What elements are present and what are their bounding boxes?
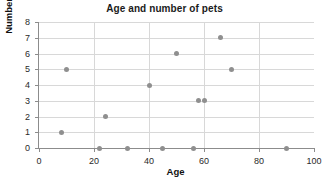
data-point [174, 51, 179, 56]
chart-title: Age and number of pets [0, 3, 329, 14]
gridline-vertical [94, 22, 95, 148]
y-tick: 3 [35, 101, 39, 102]
data-point [59, 130, 64, 135]
y-tick: 7 [35, 38, 39, 39]
x-axis-label: Age [38, 166, 313, 177]
y-axis-label-container: Number of pets [4, 22, 16, 148]
y-tick: 6 [35, 54, 39, 55]
y-tick-label: 6 [25, 49, 30, 59]
y-tick-label: 7 [25, 33, 30, 43]
gridline-horizontal [39, 85, 314, 86]
data-point [64, 67, 69, 72]
x-tick: 0 [39, 148, 40, 152]
data-point [103, 114, 108, 119]
y-tick: 4 [35, 85, 39, 86]
data-point [191, 146, 196, 151]
gridline-horizontal [39, 38, 314, 39]
y-tick: 1 [35, 132, 39, 133]
x-tick: 20 [94, 148, 95, 152]
gridline-vertical [259, 22, 260, 148]
y-tick-label: 4 [25, 80, 30, 90]
scatter-chart: Age and number of pets Number of pets 01… [0, 0, 329, 187]
y-tick-label: 0 [25, 143, 30, 153]
data-point [97, 146, 102, 151]
x-tick-label: 100 [306, 156, 321, 166]
y-tick: 8 [35, 22, 39, 23]
plot-area: 012345678 020406080100 [38, 22, 314, 149]
x-tick: 80 [259, 148, 260, 152]
y-axis-label: Number of pets [3, 0, 14, 54]
gridline-horizontal [39, 117, 314, 118]
gridline-horizontal [39, 69, 314, 70]
data-point [125, 146, 130, 151]
data-point [229, 67, 234, 72]
x-tick: 40 [149, 148, 150, 152]
gridline-vertical [204, 22, 205, 148]
gridline-horizontal [39, 132, 314, 133]
x-tick-label: 60 [199, 156, 209, 166]
data-point [284, 146, 289, 151]
y-tick-label: 8 [25, 17, 30, 27]
x-tick: 100 [314, 148, 315, 152]
data-point [196, 98, 201, 103]
y-tick-label: 1 [25, 127, 30, 137]
y-tick: 5 [35, 69, 39, 70]
y-tick: 2 [35, 117, 39, 118]
x-tick-label: 20 [89, 156, 99, 166]
gridline-horizontal [39, 22, 314, 23]
data-point [218, 35, 223, 40]
x-tick-label: 80 [254, 156, 264, 166]
y-tick-label: 2 [25, 112, 30, 122]
y-tick-label: 5 [25, 64, 30, 74]
data-point [160, 146, 165, 151]
data-point [147, 83, 152, 88]
x-tick-label: 0 [36, 156, 41, 166]
gridline-horizontal [39, 101, 314, 102]
x-tick: 60 [204, 148, 205, 152]
data-point [202, 98, 207, 103]
x-tick-label: 40 [144, 156, 154, 166]
y-tick-label: 3 [25, 96, 30, 106]
